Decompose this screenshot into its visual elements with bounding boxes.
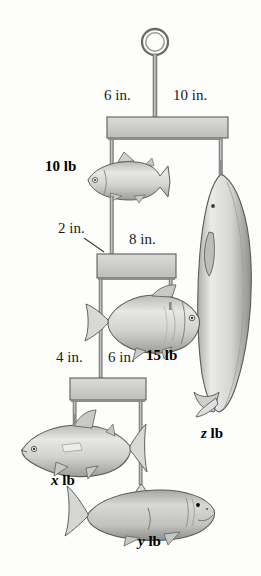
dimension-label-6in-top: 6 in. xyxy=(104,88,131,103)
dimension-label-2in-middle: 2 in. xyxy=(58,221,85,236)
variable-x: x xyxy=(51,472,59,488)
variable-z: z xyxy=(201,425,207,441)
support-ring-icon xyxy=(142,29,168,117)
weight-label-y-lb: y lb xyxy=(138,534,161,549)
dimension-label-8in-middle: 8 in. xyxy=(129,232,156,247)
fish-trout-10lb xyxy=(88,152,170,203)
weight-label-15lb: 15 lb xyxy=(146,348,177,363)
fish-tuna-x xyxy=(21,410,147,479)
unit-lb-z: lb xyxy=(211,425,224,441)
fish-whale-z xyxy=(194,160,251,417)
dimension-label-4in-bottom: 4 in. xyxy=(56,350,83,365)
rod-top-to-middle xyxy=(110,196,113,254)
fish-mobile-figure: 6 in. 10 in. 2 in. 8 in. 4 in. 6 in. 10 … xyxy=(0,0,261,576)
dimension-label-6in-bottom: 6 in. xyxy=(108,350,135,365)
unit-lb-x: lb xyxy=(62,472,75,488)
unit-lb-y: lb xyxy=(148,533,161,549)
weight-label-x-lb: x lb xyxy=(51,473,75,488)
weight-label-10lb: 10 lb xyxy=(45,159,76,174)
weight-label-z-lb: z lb xyxy=(201,426,223,441)
variable-y: y xyxy=(138,533,145,549)
dimension-label-10in-top: 10 in. xyxy=(173,88,207,103)
